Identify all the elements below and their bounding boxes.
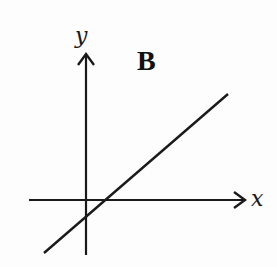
diagram-canvas: y x B [0,0,277,267]
x-axis-label: x [251,186,264,211]
x-axis [29,192,245,208]
graph-svg: y x B [0,0,277,267]
y-axis-label: y [74,23,88,48]
linear-function-line [44,94,228,253]
y-axis [78,54,94,255]
panel-label: B [137,45,156,76]
